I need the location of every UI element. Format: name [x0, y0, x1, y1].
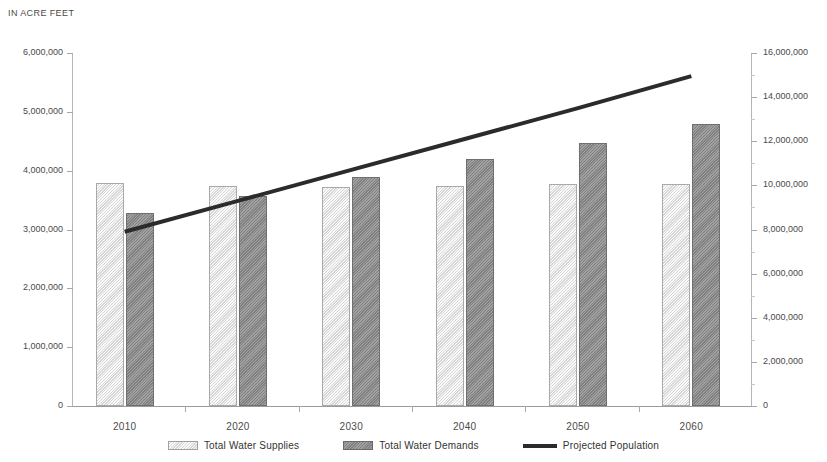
right-axis-tick-label: 14,000,000 — [763, 92, 808, 101]
x-axis-label: 2010 — [113, 421, 136, 432]
left-axis-tick — [67, 406, 73, 407]
chart-legend: Total Water SuppliesTotal Water DemandsP… — [0, 440, 827, 451]
line-swatch-black-icon — [523, 444, 557, 448]
plot-area: 01,000,0002,000,0003,000,0004,000,0005,0… — [72, 53, 752, 406]
x-axis-tick — [185, 406, 186, 412]
legend-entry-demands[interactable]: Total Water Demands — [343, 440, 479, 451]
bar-swatch-dark-icon — [343, 441, 373, 450]
right-axis-tick-label: 4,000,000 — [763, 313, 803, 322]
legend-entry-supplies[interactable]: Total Water Supplies — [168, 440, 299, 451]
right-axis-tick — [751, 406, 757, 407]
x-axis-label: 2060 — [680, 421, 703, 432]
x-axis-tick — [412, 406, 413, 412]
right-axis-tick-label: 0 — [763, 401, 768, 410]
legend-label: Projected Population — [563, 440, 659, 451]
axis-unit-caption: IN ACRE FEET — [8, 8, 74, 18]
right-axis-tick-label: 8,000,000 — [763, 225, 803, 234]
projected-population-line — [125, 76, 692, 232]
x-axis-tick — [299, 406, 300, 412]
legend-label: Total Water Demands — [379, 440, 479, 451]
right-axis-tick-label: 12,000,000 — [763, 136, 808, 145]
right-axis-tick-label: 10,000,000 — [763, 180, 808, 189]
x-axis-label: 2030 — [340, 421, 363, 432]
right-axis-tick-label: 6,000,000 — [763, 269, 803, 278]
x-axis-label: 2020 — [226, 421, 249, 432]
legend-entry-population[interactable]: Projected Population — [523, 440, 659, 451]
population-line-layer — [72, 53, 752, 406]
left-axis-tick-label: 5,000,000 — [23, 107, 63, 116]
left-axis-tick-label: 3,000,000 — [23, 225, 63, 234]
x-axis-label: 2050 — [566, 421, 589, 432]
left-axis-tick-label: 0 — [58, 401, 63, 410]
bar-swatch-light-icon — [168, 441, 198, 450]
right-axis-tick-label: 16,000,000 — [763, 48, 808, 57]
right-axis-tick-label: 2,000,000 — [763, 357, 803, 366]
left-axis-tick-label: 2,000,000 — [23, 283, 63, 292]
legend-label: Total Water Supplies — [204, 440, 299, 451]
left-axis-tick-label: 4,000,000 — [23, 166, 63, 175]
left-axis-tick-label: 1,000,000 — [23, 342, 63, 351]
x-axis-label: 2040 — [453, 421, 476, 432]
x-axis-tick — [639, 406, 640, 412]
left-axis-tick-label: 6,000,000 — [23, 48, 63, 57]
water-supply-demand-chart: IN ACRE FEET 01,000,0002,000,0003,000,00… — [0, 0, 827, 462]
x-axis-tick — [525, 406, 526, 412]
